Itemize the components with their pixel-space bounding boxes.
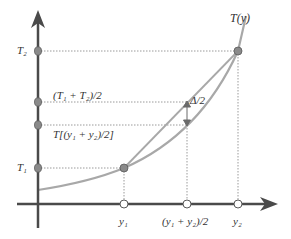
y-mid-point — [183, 200, 191, 208]
curve-label: T(y) — [230, 11, 250, 25]
curve-t-of-y — [38, 16, 246, 190]
y2-label: y₂ — [232, 215, 242, 227]
y1-point — [120, 200, 128, 208]
y-mid-label: (y₁ + y₂)/2 — [162, 215, 209, 228]
t-avg-point — [35, 98, 42, 106]
point-y1-t1 — [120, 164, 128, 172]
t-of-mid-label: T[(y₁ + y₂)/2] — [53, 128, 114, 141]
t2-label: T₂ — [17, 44, 27, 56]
delta-label: Δ/2 — [189, 94, 206, 106]
y1-label: y₁ — [118, 215, 128, 227]
y2-point — [234, 200, 242, 208]
point-y2-t2 — [234, 47, 242, 55]
t2-point — [35, 47, 42, 55]
convexity-diagram: T(y) T₂ (T₁ + T₂)/2 T[(y₁ + y₂)/2] T₁ Δ/… — [0, 0, 291, 239]
t-mid-point — [35, 121, 42, 129]
t1-point — [35, 164, 42, 172]
chord-line — [124, 51, 238, 168]
t1-label: T₁ — [17, 161, 27, 173]
t-avg-label: (T₁ + T₂)/2 — [53, 89, 102, 102]
